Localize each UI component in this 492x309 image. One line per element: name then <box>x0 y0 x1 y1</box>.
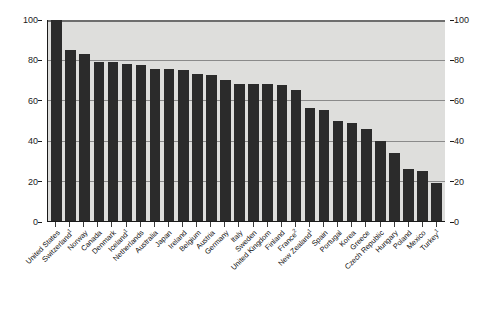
y-axis-right-tick-100 <box>450 20 454 21</box>
bar[interactable] <box>305 108 316 221</box>
y-axis-left: 100806040200 <box>0 20 42 222</box>
y-axis-right-tick-60 <box>450 100 454 101</box>
y-axis-right-label-100: 100 <box>450 16 492 25</box>
bar-slot <box>345 20 359 221</box>
bar-slot <box>218 20 232 221</box>
bar[interactable] <box>51 20 62 221</box>
bar[interactable] <box>65 50 76 221</box>
bar-slot <box>64 20 78 221</box>
y-axis-left-label-20: 20 <box>0 177 42 186</box>
bar-slot <box>387 20 401 221</box>
bar-slot <box>289 20 303 221</box>
bar[interactable] <box>291 90 302 221</box>
y-axis-right-tick-80 <box>450 60 454 61</box>
bar[interactable] <box>234 84 245 221</box>
bar[interactable] <box>220 80 231 221</box>
bar-slot <box>430 20 444 221</box>
y-axis-right: 100806040200 <box>450 20 492 222</box>
bar-slot <box>416 20 430 221</box>
bar[interactable] <box>164 69 175 221</box>
bar[interactable] <box>375 141 386 221</box>
bar-slot <box>401 20 415 221</box>
bar-slot <box>317 20 331 221</box>
bar-slot <box>233 20 247 221</box>
bar[interactable] <box>192 74 203 221</box>
y-axis-right-tick-0 <box>450 222 454 223</box>
bar[interactable] <box>333 121 344 222</box>
bar-slot <box>373 20 387 221</box>
bar-slot <box>78 20 92 221</box>
bar-slot <box>190 20 204 221</box>
bar[interactable] <box>94 62 105 221</box>
y-axis-left-tick-40 <box>38 141 42 142</box>
bar[interactable] <box>136 65 147 221</box>
y-axis-right-tick-40 <box>450 141 454 142</box>
y-axis-left-label-40: 40 <box>0 137 42 146</box>
bar[interactable] <box>79 54 90 221</box>
y-axis-left-label-60: 60 <box>0 96 42 105</box>
y-axis-left-tick-80 <box>38 60 42 61</box>
y-axis-left-tick-0 <box>38 222 42 223</box>
bar-slot <box>134 20 148 221</box>
bar-slot <box>92 20 106 221</box>
y-axis-left-label-100: 100 <box>0 16 42 25</box>
bar[interactable] <box>431 183 442 221</box>
y-axis-right-label-80: 80 <box>450 56 492 65</box>
bar[interactable] <box>417 171 428 221</box>
bar-slot <box>303 20 317 221</box>
bar[interactable] <box>150 69 161 221</box>
bar-slot <box>162 20 176 221</box>
bar[interactable] <box>248 84 259 221</box>
bar[interactable] <box>347 123 358 221</box>
x-axis-labels: United StatesSwitzerland1NorwayCanadaDen… <box>47 227 445 309</box>
plot-area <box>47 20 445 222</box>
y-axis-right-tick-20 <box>450 181 454 182</box>
bar-slot <box>50 20 64 221</box>
bar[interactable] <box>319 110 330 221</box>
bar[interactable] <box>262 84 273 221</box>
bar[interactable] <box>122 64 133 221</box>
bar[interactable] <box>178 70 189 221</box>
bar[interactable] <box>403 169 414 221</box>
bar[interactable] <box>206 75 217 221</box>
bar-slot <box>176 20 190 221</box>
y-axis-right-label-0: 0 <box>450 218 492 227</box>
bar-slot <box>106 20 120 221</box>
y-axis-left-tick-100 <box>38 20 42 21</box>
bar-slot <box>275 20 289 221</box>
bar-slot <box>261 20 275 221</box>
bar[interactable] <box>108 62 119 221</box>
bar[interactable] <box>361 129 372 221</box>
bar[interactable] <box>277 85 288 221</box>
bar-slot <box>247 20 261 221</box>
bar-slot <box>120 20 134 221</box>
bar-chart: 100806040200 100806040200 United StatesS… <box>0 0 492 309</box>
bar-series <box>48 20 445 221</box>
y-axis-left-tick-60 <box>38 100 42 101</box>
bar-slot <box>148 20 162 221</box>
y-axis-left-tick-20 <box>38 181 42 182</box>
y-axis-left-label-80: 80 <box>0 56 42 65</box>
x-label-slot: Turkey1 <box>429 227 443 309</box>
y-axis-left-label-0: 0 <box>0 218 42 227</box>
y-axis-right-label-60: 60 <box>450 96 492 105</box>
bar-slot <box>204 20 218 221</box>
bar-slot <box>359 20 373 221</box>
y-axis-right-label-40: 40 <box>450 137 492 146</box>
bar[interactable] <box>389 153 400 221</box>
y-axis-right-label-20: 20 <box>450 177 492 186</box>
bar-slot <box>331 20 345 221</box>
